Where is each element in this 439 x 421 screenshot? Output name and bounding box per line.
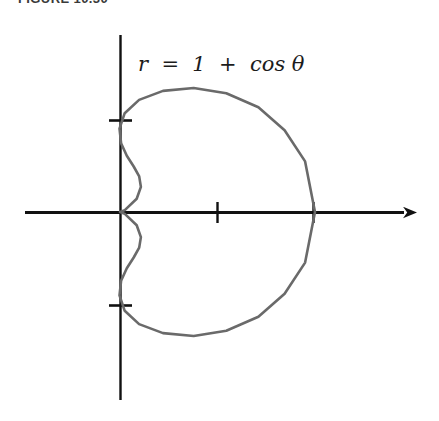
polar-equation-label: r = 1 + cos θ bbox=[138, 52, 305, 76]
figure-container: FIGURE 10.30 r = 1 + cos θ bbox=[0, 0, 439, 421]
